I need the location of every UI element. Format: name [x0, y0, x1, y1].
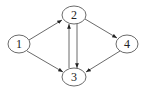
- node-1: 1: [8, 35, 30, 53]
- node-4-label: 4: [124, 37, 130, 51]
- node-2: 2: [62, 6, 86, 24]
- edge-1-to-3: [27, 51, 63, 72]
- graph-canvas: 1 2 3 4: [0, 0, 149, 92]
- edge-2-to-4: [85, 19, 117, 38]
- node-4: 4: [116, 35, 138, 53]
- node-1-label: 1: [16, 37, 22, 51]
- edge-4-to-3: [86, 51, 120, 72]
- node-3: 3: [62, 68, 86, 86]
- edge-1-to-2: [29, 20, 62, 40]
- node-3-label: 3: [71, 70, 77, 84]
- node-2-label: 2: [71, 8, 77, 22]
